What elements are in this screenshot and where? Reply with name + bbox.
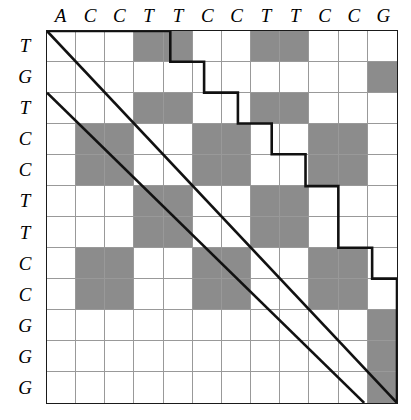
matrix-cell	[193, 155, 222, 186]
matrix-cell	[76, 279, 105, 310]
matrix-cell	[134, 310, 163, 341]
matrix-cell	[47, 186, 76, 217]
matrix-cell	[280, 31, 309, 62]
matrix-cell	[105, 186, 134, 217]
matrix-cell	[339, 372, 368, 403]
matrix-cell	[309, 124, 338, 155]
matrix-cell	[368, 279, 397, 310]
matrix-cell	[222, 310, 251, 341]
matrix-cell	[134, 372, 163, 403]
column-header-1: C	[75, 2, 104, 29]
matrix-cell	[105, 248, 134, 279]
matrix-cell	[134, 93, 163, 124]
matrix-cell	[76, 31, 105, 62]
row-header-8: C	[6, 279, 44, 310]
matrix-cell	[280, 248, 309, 279]
matrix-cell	[134, 124, 163, 155]
column-header-9: C	[310, 2, 339, 29]
column-header-3: T	[134, 2, 163, 29]
matrix-cell	[251, 62, 280, 93]
matrix-cell	[193, 31, 222, 62]
matrix-cell	[280, 341, 309, 372]
matrix-cell	[339, 155, 368, 186]
matrix-cell	[280, 217, 309, 248]
matrix-cell	[280, 310, 309, 341]
matrix-cell	[280, 62, 309, 93]
matrix-cell	[368, 217, 397, 248]
matrix-cell	[368, 93, 397, 124]
matrix-cell	[368, 372, 397, 403]
matrix-cell	[339, 310, 368, 341]
matrix-cell	[164, 124, 193, 155]
row-header-7: C	[6, 248, 44, 279]
matrix-cell	[193, 310, 222, 341]
matrix-cell	[134, 155, 163, 186]
matrix-cell	[193, 186, 222, 217]
matrix-cell	[309, 62, 338, 93]
matrix-cell	[47, 155, 76, 186]
matrix-cell	[134, 248, 163, 279]
matrix-cell	[309, 217, 338, 248]
matrix-cell	[164, 310, 193, 341]
dot-plot-figure: ACCTTCCTTCCG TGTCCTTCCGGG	[0, 0, 411, 420]
matrix-cell	[47, 372, 76, 403]
matrix-cell	[164, 31, 193, 62]
matrix-cell	[339, 186, 368, 217]
matrix-cell	[339, 341, 368, 372]
matrix-cell	[309, 341, 338, 372]
column-header-6: C	[222, 2, 251, 29]
matrix-cell	[339, 31, 368, 62]
matrix-cell	[339, 248, 368, 279]
matrix-cell	[222, 217, 251, 248]
matrix-cell	[105, 62, 134, 93]
matrix-cell	[47, 248, 76, 279]
matrix-cell	[222, 372, 251, 403]
matrix-cell	[368, 31, 397, 62]
row-header-11: G	[6, 373, 44, 404]
matrix-cell	[280, 279, 309, 310]
matrix-cell	[105, 155, 134, 186]
column-header-5: C	[193, 2, 222, 29]
matrix-cell	[193, 248, 222, 279]
matrix-cell	[309, 279, 338, 310]
matrix-cell	[164, 279, 193, 310]
matrix-cell	[164, 186, 193, 217]
matrix-cell	[193, 124, 222, 155]
matrix-cell	[339, 279, 368, 310]
matrix-cell	[222, 62, 251, 93]
row-header-9: G	[6, 311, 44, 342]
matrix-cell	[76, 217, 105, 248]
matrix-cell	[134, 62, 163, 93]
matrix-cell	[134, 217, 163, 248]
matrix-cell	[193, 217, 222, 248]
matrix-cell	[76, 155, 105, 186]
matrix-cell	[193, 93, 222, 124]
matrix-cell	[251, 279, 280, 310]
matrix-cell	[47, 217, 76, 248]
matrix-cell	[339, 62, 368, 93]
matrix-cell	[105, 124, 134, 155]
matrix-cell	[76, 124, 105, 155]
row-header-2: T	[6, 92, 44, 123]
matrix-cell	[105, 372, 134, 403]
matrix-cell	[222, 93, 251, 124]
row-header-5: T	[6, 186, 44, 217]
matrix-cell	[280, 155, 309, 186]
row-header-0: T	[6, 30, 44, 61]
column-header-4: T	[163, 2, 192, 29]
matrix-cell	[164, 372, 193, 403]
matrix-cell	[76, 186, 105, 217]
column-header-0: A	[46, 2, 75, 29]
matrix-cell	[164, 155, 193, 186]
matrix-cell	[368, 248, 397, 279]
matrix-cell	[222, 248, 251, 279]
matrix-cell	[47, 31, 76, 62]
matrix-cell	[280, 186, 309, 217]
matrix-cell	[222, 155, 251, 186]
matrix-cell	[164, 62, 193, 93]
matrix-cell	[309, 186, 338, 217]
column-header-11: G	[369, 2, 398, 29]
matrix-cell	[164, 248, 193, 279]
matrix-cell	[47, 310, 76, 341]
matrix-cell	[339, 124, 368, 155]
